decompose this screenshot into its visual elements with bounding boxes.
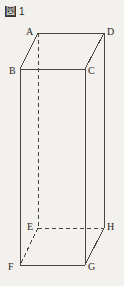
vertex-label-G: G	[88, 261, 95, 272]
vertex-label-F: F	[8, 261, 14, 272]
vertex-label-E: E	[27, 221, 33, 232]
edge-GH	[85, 228, 104, 265]
edge-BA	[20, 33, 38, 69]
edge-EF	[20, 228, 38, 265]
vertex-label-A: A	[26, 26, 34, 37]
vertex-label-H: H	[107, 221, 114, 232]
vertex-label-D: D	[107, 26, 114, 37]
edge-DC	[85, 33, 104, 69]
rectangular-prism-diagram: ABCDEFGH	[0, 0, 124, 286]
vertex-label-B: B	[9, 65, 16, 76]
vertex-label-C: C	[88, 65, 95, 76]
figure-container: 図 1 ABCDEFGH	[0, 0, 124, 286]
vertex-labels-group: ABCDEFGH	[8, 26, 114, 272]
